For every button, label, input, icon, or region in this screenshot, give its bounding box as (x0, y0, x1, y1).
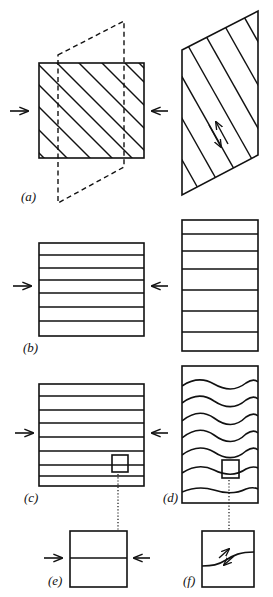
panel-label-e: (e) (48, 573, 62, 588)
panel-label-d: (d) (163, 490, 178, 505)
inset-marker-box (112, 455, 128, 472)
inset-marker-box (222, 460, 239, 478)
panel-d: (d) (163, 366, 258, 531)
buckled-layers (182, 380, 258, 493)
diagonal-layers (0, 56, 242, 166)
panel-label-c: (c) (24, 490, 38, 505)
sheared-outline-dashed (58, 21, 124, 203)
panel-label-f: (f) (183, 573, 195, 588)
panel-b-original-box (39, 243, 144, 336)
panel-c: (c) (15, 384, 168, 531)
panel-b: (b) (13, 220, 258, 355)
panel-a-original-square (0, 56, 242, 166)
panel-label-b: (b) (23, 340, 38, 355)
box-outline (39, 243, 144, 336)
box-outline (70, 531, 127, 587)
deformation-figure: (a) (0, 0, 273, 597)
inclined-layer-boundary (202, 552, 254, 566)
panel-label-a: (a) (21, 189, 36, 204)
shear-sense-arrows-icon (209, 122, 228, 147)
square-outline (39, 63, 144, 158)
panel-e: (e) (44, 531, 150, 588)
panel-f: (f) (183, 531, 254, 588)
panel-b-shortened-box (182, 220, 258, 351)
